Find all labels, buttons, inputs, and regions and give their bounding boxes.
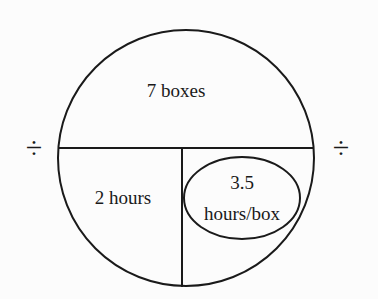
answer-ellipse bbox=[184, 157, 300, 239]
division-circle-diagram: 7 boxes 2 hours 3.5 hours/box ÷ ÷ bbox=[0, 0, 378, 299]
diagram-canvas: 7 boxes 2 hours 3.5 hours/box ÷ ÷ bbox=[0, 0, 378, 299]
top-label: 7 boxes bbox=[147, 80, 206, 101]
bottom-right-label-value: 3.5 bbox=[230, 172, 254, 193]
outer-circle bbox=[58, 30, 314, 286]
left-division-icon: ÷ bbox=[26, 131, 42, 164]
bottom-left-label: 2 hours bbox=[95, 187, 151, 208]
bottom-right-label-unit: hours/box bbox=[204, 203, 281, 224]
right-division-icon: ÷ bbox=[333, 131, 349, 164]
